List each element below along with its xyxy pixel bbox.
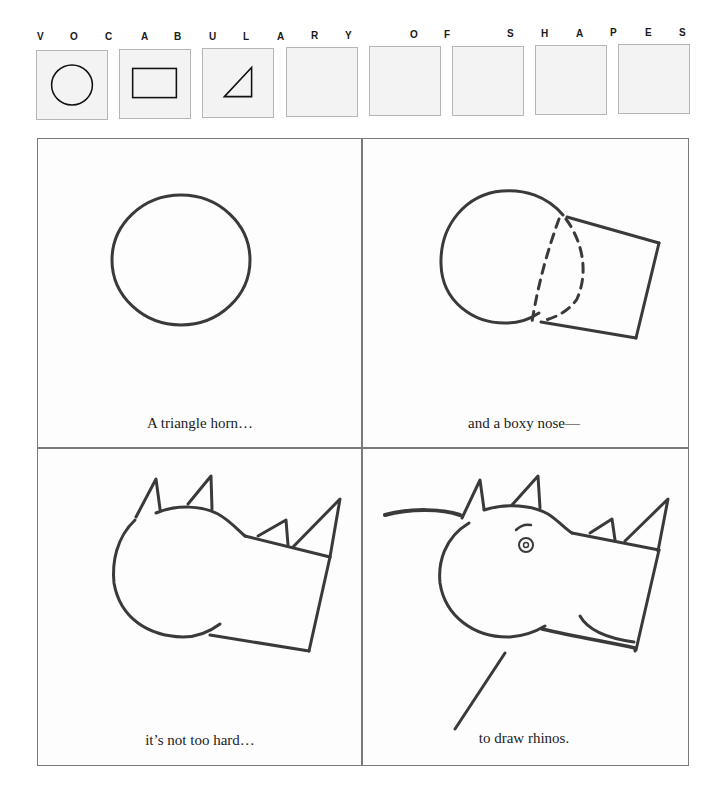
drawing-steps-grid: A triangle horn… and a boxy nose— — [37, 138, 689, 766]
vocab-box-triangle — [202, 48, 274, 118]
circle-drawing — [38, 139, 362, 448]
rectangle-icon — [120, 50, 190, 118]
vocabulary-title: V O C A B U L A R Y O F S H A P E S — [0, 0, 726, 40]
title-letter: C — [105, 31, 112, 42]
panel-step-1: A triangle horn… — [38, 139, 362, 448]
panel-step-2: and a boxy nose— — [362, 139, 686, 448]
title-letter: A — [277, 31, 284, 42]
title-letter: B — [174, 31, 181, 42]
title-letter: P — [610, 27, 617, 38]
head-with-horns-drawing — [38, 448, 362, 757]
vocab-box-empty — [286, 47, 358, 117]
panel-caption: to draw rhinos. — [362, 730, 686, 747]
vocab-box-rectangle — [119, 49, 191, 119]
title-letter: Y — [345, 30, 352, 41]
title-letter: L — [243, 31, 249, 42]
triangle-icon — [203, 49, 273, 117]
title-letter: O — [70, 31, 78, 42]
title-letter: A — [576, 28, 583, 39]
circle-icon — [37, 51, 107, 119]
title-letter: V — [37, 31, 44, 42]
complete-rhino-drawing — [362, 448, 686, 757]
title-letter: R — [311, 30, 318, 41]
panel-caption: and a boxy nose— — [362, 415, 686, 432]
title-letter: S — [507, 28, 514, 39]
panel-step-4: to draw rhinos. — [362, 448, 686, 757]
vocab-box-empty — [535, 45, 607, 115]
title-letter: U — [209, 31, 216, 42]
title-letter: S — [679, 27, 686, 38]
title-letter: O — [410, 29, 418, 40]
panel-step-3: it’s not too hard… — [38, 448, 362, 757]
title-letter: A — [141, 31, 148, 42]
vocab-box-empty — [369, 46, 441, 116]
title-letter: F — [444, 29, 450, 40]
vocab-box-empty — [452, 46, 524, 116]
vocab-box-circle — [36, 50, 108, 120]
vocab-box-empty — [618, 44, 690, 114]
panel-caption: A triangle horn… — [38, 415, 362, 432]
panel-caption: it’s not too hard… — [38, 732, 362, 749]
circle-with-box-nose-drawing — [362, 139, 686, 448]
title-letter: H — [541, 28, 548, 39]
title-letter: E — [645, 27, 652, 38]
